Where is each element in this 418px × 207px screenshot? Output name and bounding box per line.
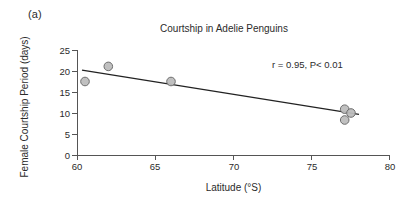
data-point-marker: [347, 109, 356, 118]
data-point-marker: [104, 62, 113, 71]
data-point-marker: [167, 77, 176, 86]
data-point-marker: [340, 116, 349, 125]
data-point-marker: [81, 77, 90, 86]
plot-area: [0, 0, 418, 207]
figure-panel: (a) Courtship in Adelie Penguins r = 0.9…: [0, 0, 418, 207]
trend-line: [82, 70, 359, 114]
